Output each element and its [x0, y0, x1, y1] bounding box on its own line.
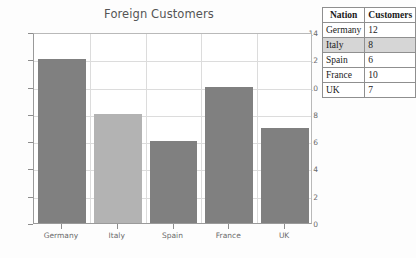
table-body: Germany12Italy8Spain6France10UK7	[323, 23, 416, 98]
cell-nation: Germany	[323, 23, 365, 38]
y-axis-tick-mark	[28, 224, 33, 225]
bar-spain[interactable]	[150, 141, 198, 223]
x-axis-tick-label: Italy	[89, 231, 145, 240]
x-axis-tick-mark	[228, 224, 229, 229]
table-header: Nation Customers	[323, 8, 416, 23]
nation-customers-table-panel: Nation Customers Germany12Italy8Spain6Fr…	[322, 7, 416, 98]
x-axis-tick-mark	[284, 224, 285, 229]
bar-france[interactable]	[205, 87, 253, 223]
column-header-nation: Nation	[323, 8, 365, 23]
chart-panel: Foreign Customers 02468101214 GermanyIta…	[0, 0, 318, 258]
gridline-vertical	[90, 34, 91, 223]
x-axis-tick-label: Spain	[145, 231, 201, 240]
x-axis-tick-mark	[117, 224, 118, 229]
x-axis-tick-label: UK	[256, 231, 312, 240]
table-row[interactable]: Italy8	[323, 38, 416, 53]
x-axis-tick-mark	[61, 224, 62, 229]
cell-customers: 10	[365, 68, 416, 83]
gridline-vertical	[201, 34, 202, 223]
table-row[interactable]: UK7	[323, 83, 416, 98]
table-row[interactable]: France10	[323, 68, 416, 83]
nation-customers-table: Nation Customers Germany12Italy8Spain6Fr…	[322, 7, 416, 98]
chart-title: Foreign Customers	[0, 7, 318, 21]
x-axis-tick-label: Germany	[33, 231, 89, 240]
cell-customers: 12	[365, 23, 416, 38]
table-row[interactable]: Spain6	[323, 53, 416, 68]
x-axis-tick-mark	[173, 224, 174, 229]
cell-nation: Italy	[323, 38, 365, 53]
cell-customers: 6	[365, 53, 416, 68]
bar-germany[interactable]	[38, 59, 86, 223]
table-row[interactable]: Germany12	[323, 23, 416, 38]
cell-customers: 8	[365, 38, 416, 53]
x-axis-tick-label: France	[200, 231, 256, 240]
cell-nation: France	[323, 68, 365, 83]
column-header-customers: Customers	[365, 8, 416, 23]
bar-uk[interactable]	[261, 128, 309, 224]
plot-area	[33, 33, 312, 224]
bar-italy[interactable]	[94, 114, 142, 223]
cell-nation: UK	[323, 83, 365, 98]
gridline-vertical	[146, 34, 147, 223]
cell-nation: Spain	[323, 53, 365, 68]
table-header-row: Nation Customers	[323, 8, 416, 23]
cell-customers: 7	[365, 83, 416, 98]
gridline-vertical	[257, 34, 258, 223]
